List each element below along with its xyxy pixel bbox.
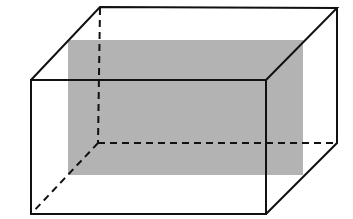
- cross-section-plane: [68, 40, 303, 175]
- prism-diagram: [0, 0, 353, 219]
- hidden-edge-depth: [31, 143, 98, 214]
